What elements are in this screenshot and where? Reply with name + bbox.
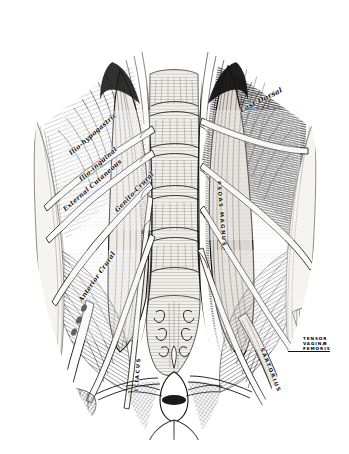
anatomical-plate: Ilio-hypogastric Ilio-inguinal External … [0,0,349,454]
page-vignette [0,0,349,454]
label-tensor-vaginae-femoris-block: TENSOR VAGINÆ FEMORIS [303,336,331,351]
lead-rule [288,351,330,352]
engraving-canvas [0,0,349,454]
